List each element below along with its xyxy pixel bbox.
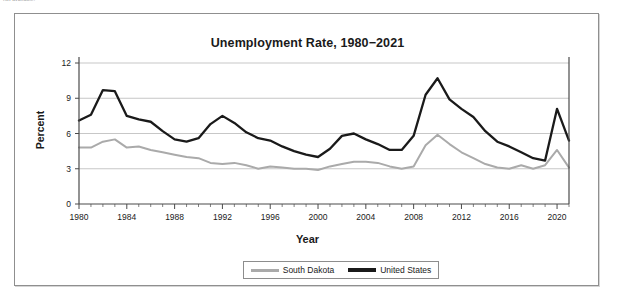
y-tick-labels: 036912 <box>62 58 79 209</box>
legend-swatch-icon-united-states <box>348 268 376 272</box>
x-tick-labels: 1980198419881992199620002004200820122016… <box>70 212 567 222</box>
svg-text:2016: 2016 <box>500 212 519 222</box>
svg-text:3: 3 <box>66 164 71 174</box>
axis-lines <box>79 57 569 204</box>
svg-text:2020: 2020 <box>548 212 567 222</box>
svg-text:1984: 1984 <box>117 212 136 222</box>
svg-text:9: 9 <box>66 93 71 103</box>
clipped-header-text: not available. <box>3 0 35 2</box>
svg-text:1988: 1988 <box>165 212 184 222</box>
screenshot-page: not available. Unemployment Rate, 1980−2… <box>0 0 618 305</box>
legend-item-united-states: United States <box>348 265 431 275</box>
chart-frame: Unemployment Rate, 1980−2021 Percent 036… <box>14 13 599 286</box>
line-chart-plot: 036912 198019841988199219962000200420082… <box>15 14 600 229</box>
series-lines <box>79 78 569 170</box>
legend-item-south-dakota: South Dakota <box>251 265 335 275</box>
svg-text:2012: 2012 <box>452 212 471 222</box>
svg-text:1996: 1996 <box>261 212 280 222</box>
svg-text:1992: 1992 <box>213 212 232 222</box>
svg-text:6: 6 <box>66 129 71 139</box>
svg-text:2004: 2004 <box>356 212 375 222</box>
legend-label-south-dakota: South Dakota <box>283 265 335 275</box>
svg-text:2008: 2008 <box>404 212 423 222</box>
legend-label-united-states: United States <box>380 265 431 275</box>
svg-text:12: 12 <box>62 58 72 68</box>
svg-text:1980: 1980 <box>70 212 89 222</box>
svg-text:2000: 2000 <box>309 212 328 222</box>
x-tick-marks <box>79 204 569 209</box>
legend-swatch-icon-south-dakota <box>251 269 279 272</box>
svg-text:0: 0 <box>66 199 71 209</box>
x-axis-label: Year <box>15 233 600 245</box>
chart-legend: South Dakota United States <box>243 261 439 279</box>
